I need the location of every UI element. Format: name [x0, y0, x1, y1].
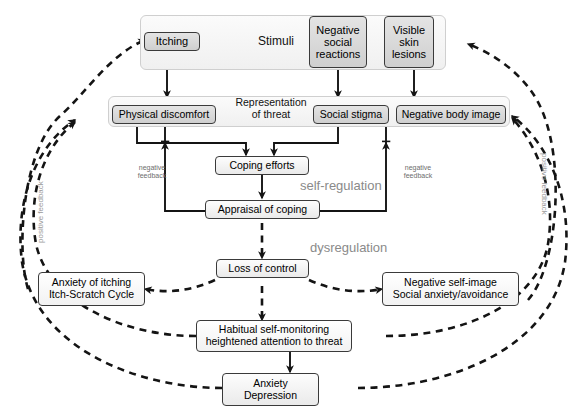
node-anxiety-depression-line2: Depression: [226, 390, 315, 402]
annotation-negative-feedback-left-line1: negative: [126, 164, 178, 172]
node-negative-body-image-label: Negative body image: [397, 109, 505, 121]
edge-positive-feedback-depression-right: [358, 116, 566, 388]
annotation-dysregulation: dysregulation: [310, 241, 387, 255]
node-visible-skin-lesions-line2: skin: [388, 36, 430, 48]
node-visible-skin-lesions-line3: lesions: [388, 48, 430, 60]
node-negative-social-reactions[interactable]: Negative social reactions: [309, 16, 367, 68]
node-social-stigma-label: Social stigma: [314, 109, 388, 121]
node-appraisal-of-coping[interactable]: Appraisal of coping: [205, 200, 320, 219]
panel-representation-line2: of threat: [216, 109, 326, 121]
node-appraisal-of-coping-label: Appraisal of coping: [206, 204, 319, 216]
node-visible-skin-lesions[interactable]: Visible skin lesions: [384, 16, 434, 68]
node-negative-self-image-line2: Social anxiety/avoidance: [386, 289, 515, 301]
node-negative-body-image[interactable]: Negative body image: [396, 105, 506, 124]
node-anxiety-of-itching-line2: Itch-Scratch Cycle: [42, 289, 141, 301]
node-physical-discomfort[interactable]: Physical discomfort: [112, 105, 216, 124]
annotation-negative-feedback-left: negative feedback: [126, 164, 178, 180]
node-coping-efforts-label: Coping efforts: [216, 160, 308, 172]
node-anxiety-depression[interactable]: Anxiety Depression: [222, 373, 319, 406]
node-coping-efforts[interactable]: Coping efforts: [215, 156, 309, 175]
node-anxiety-of-itching[interactable]: Anxiety of itching Itch-Scratch Cycle: [38, 272, 145, 306]
edge-positive-feedback-depression-left: [20, 120, 222, 388]
node-itching-label: Itching: [145, 35, 199, 47]
annotation-negative-feedback-right-line1: negative: [392, 164, 444, 172]
annotation-self-regulation: self-regulation: [300, 179, 382, 193]
node-negative-social-reactions-line1: Negative: [313, 24, 363, 36]
node-negative-self-image[interactable]: Negative self-image Social anxiety/avoid…: [382, 272, 519, 306]
annotation-negative-feedback-right-line2: feedback: [392, 172, 444, 180]
node-itching[interactable]: Itching: [144, 32, 200, 51]
node-habitual-self-monitoring[interactable]: Habitual self-monitoring heightened atte…: [196, 320, 352, 352]
node-social-stigma[interactable]: Social stigma: [313, 105, 389, 124]
annotation-positive-feedback-left: positive feedback: [36, 181, 45, 243]
annotation-negative-feedback-right: negative feedback: [392, 164, 444, 180]
diagram-canvas: Stimuli Representation of threat Itching…: [0, 0, 581, 416]
edge-appraisal-to-negative-body-image: [320, 143, 386, 211]
edge-loss-to-negative-self-image: [309, 280, 382, 291]
edge-loss-to-anxiety-of-itching: [145, 280, 215, 291]
panel-representation-label: Representation of threat: [216, 97, 326, 121]
node-negative-social-reactions-line2: social: [313, 36, 363, 48]
node-physical-discomfort-label: Physical discomfort: [113, 109, 215, 121]
node-negative-social-reactions-line3: reactions: [313, 48, 363, 60]
node-habitual-self-monitoring-line2: heightened attention to threat: [200, 336, 348, 348]
annotation-negative-feedback-left-line2: feedback: [126, 172, 178, 180]
annotation-positive-feedback-right: positive feedback: [540, 153, 549, 215]
node-loss-of-control-label: Loss of control: [217, 263, 308, 275]
node-anxiety-depression-line1: Anxiety: [226, 378, 315, 390]
node-visible-skin-lesions-line1: Visible: [388, 24, 430, 36]
edge-physical-discomfort-to-coping: [137, 127, 246, 155]
edge-social-stigma-to-coping: [274, 127, 338, 155]
node-loss-of-control[interactable]: Loss of control: [216, 259, 309, 278]
figure-caption: [95, 409, 395, 416]
